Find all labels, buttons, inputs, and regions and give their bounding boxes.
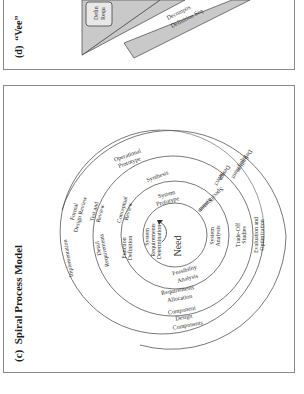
ring2-tradeoff-2: Studies	[241, 226, 247, 244]
ring1-sysanalysis-2: Analysis	[215, 225, 221, 247]
ring3-compdesign-2: Design	[175, 313, 193, 322]
spiral-diagram: Need System Requirements Determination F…	[0, 0, 304, 394]
ring1-function-2: Definition	[127, 236, 133, 261]
ring2-reqalloc-2: Allocation	[167, 293, 193, 303]
ring1-sysspec-2: Specification	[198, 186, 225, 213]
ring3-eval-2: Optimization	[259, 219, 265, 251]
center-need: Need	[172, 235, 183, 256]
ring1-sys-req-3: Determination	[156, 225, 162, 260]
ring2-synthesis: Synthesis	[145, 169, 169, 183]
